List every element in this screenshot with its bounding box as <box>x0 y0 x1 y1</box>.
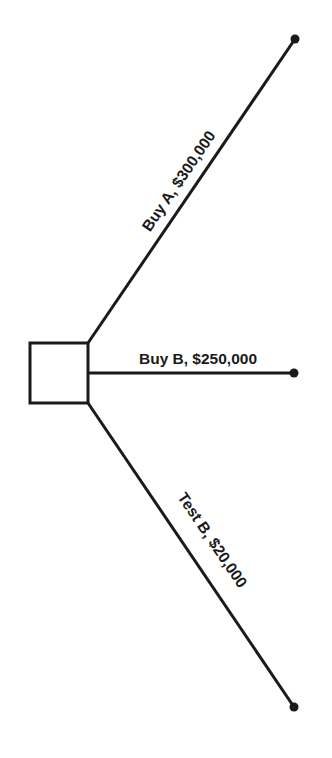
decision-tree-diagram: Buy A, $300,000 Buy B, $250,000 Test B, … <box>0 0 332 758</box>
branch-endpoint-buy-b <box>290 369 299 378</box>
branch-line-test-b <box>88 403 294 707</box>
branch-label-test-b: Test B, $20,000 <box>174 489 250 590</box>
decision-node <box>30 343 88 403</box>
branch-label-buy-a: Buy A, $300,000 <box>138 128 218 235</box>
branch-line-buy-a <box>88 39 295 343</box>
branch-endpoint-test-b <box>290 703 299 712</box>
branch-endpoint-buy-a <box>291 35 300 44</box>
branch-label-buy-b: Buy B, $250,000 <box>139 350 257 367</box>
